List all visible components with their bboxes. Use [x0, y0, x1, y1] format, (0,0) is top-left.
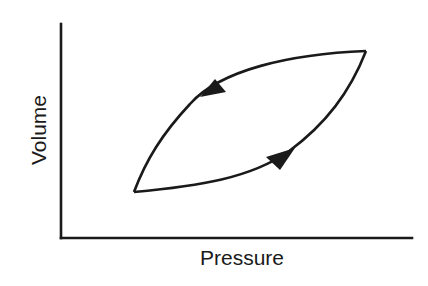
x-axis-label: Pressure [200, 247, 284, 268]
y-axis-label: Volume [28, 95, 49, 165]
lower-branch-curve [134, 51, 366, 192]
pressure-volume-diagram [0, 0, 428, 286]
arrowhead-lower-up-right-icon [266, 148, 295, 170]
